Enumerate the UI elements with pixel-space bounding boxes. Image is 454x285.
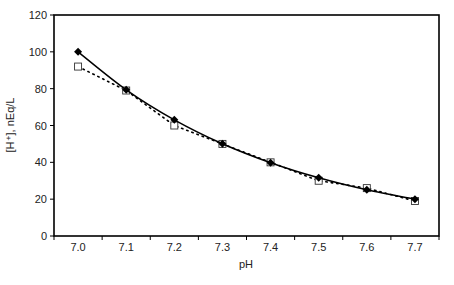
- y-tick-label: 40: [35, 156, 47, 168]
- series-approximation: [75, 63, 419, 204]
- y-tick-label: 80: [35, 83, 47, 95]
- x-tick-label: 7.0: [70, 241, 85, 253]
- x-axis-title: pH: [239, 258, 253, 270]
- x-tick-label: 7.5: [311, 241, 326, 253]
- y-tick-label: 0: [41, 230, 47, 242]
- x-tick-label: 7.3: [215, 241, 230, 253]
- chart: 020406080100120 7.07.17.27.37.47.57.67.7…: [0, 0, 454, 285]
- y-tick-label: 60: [35, 120, 47, 132]
- x-tick-label: 7.4: [263, 241, 278, 253]
- x-tick-label: 7.1: [119, 241, 134, 253]
- y-tick-label: 120: [29, 9, 47, 21]
- y-axis: 020406080100120: [29, 9, 54, 242]
- series-calculated: [74, 48, 419, 203]
- x-tick-label: 7.7: [407, 241, 422, 253]
- y-tick-label: 20: [35, 193, 47, 205]
- y-tick-label: 100: [29, 46, 47, 58]
- plot-area: [54, 15, 439, 236]
- square-marker: [75, 63, 82, 70]
- x-tick-label: 7.2: [167, 241, 182, 253]
- y-axis-title: [H⁺], nEq/L: [4, 98, 16, 153]
- series-layer: [74, 48, 419, 205]
- x-tick-label: 7.6: [359, 241, 374, 253]
- x-axis: 7.07.17.27.37.47.57.67.7: [54, 236, 439, 253]
